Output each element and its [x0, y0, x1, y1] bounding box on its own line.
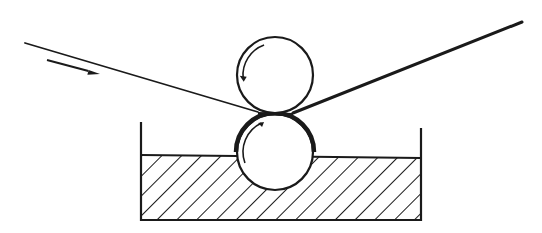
web-outgoing-coated [293, 22, 522, 113]
top-roller-circle [237, 37, 313, 113]
bottom-roller [236, 113, 314, 190]
coating-diagram [0, 0, 542, 233]
diagram-canvas [0, 0, 542, 233]
web-incoming [25, 43, 258, 112]
top-roller [237, 37, 313, 113]
